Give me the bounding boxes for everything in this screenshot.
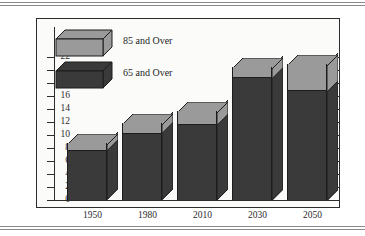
plot-area: 0246810121416182022 19501980201020302050… <box>37 19 339 207</box>
bar-segment-65-and-over <box>232 78 272 200</box>
chart-page: 0246810121416182022 19501980201020302050… <box>0 0 365 236</box>
rule-line <box>0 2 365 3</box>
bar-side-face <box>272 56 283 200</box>
bar-2050[interactable] <box>287 53 327 201</box>
legend-swatch <box>55 61 113 85</box>
bar-2010[interactable] <box>177 100 217 200</box>
legend-swatch <box>55 29 113 53</box>
rule-line <box>0 226 365 227</box>
x-axis-tick-label: 1950 <box>63 211 123 221</box>
bar-segment-divider <box>177 124 217 125</box>
y-axis-tick-label: 12 <box>61 117 71 127</box>
bar-segment-divider <box>287 90 327 91</box>
chart-legend: 85 and Over65 and Over <box>51 27 201 89</box>
x-axis-tick-label: 2030 <box>228 211 288 221</box>
bar-side-face <box>217 100 228 200</box>
x-axis-tick-label: 2010 <box>173 211 233 221</box>
rule-line <box>0 229 365 230</box>
legend-item-85-and-over[interactable]: 85 and Over <box>51 27 201 55</box>
bar-segment-65-and-over <box>177 125 217 200</box>
legend-item-65-and-over[interactable]: 65 and Over <box>51 59 201 87</box>
y-axis-tick-label: 14 <box>61 104 71 114</box>
bar-segment-65-and-over <box>67 151 107 200</box>
bar-side-face <box>327 53 338 201</box>
bar-segment-divider <box>232 77 272 78</box>
bar-segment-divider <box>122 133 162 134</box>
y-tick-right <box>332 200 339 201</box>
x-axis-tick-label: 2050 <box>283 211 343 221</box>
bar-segment-divider <box>67 150 107 151</box>
x-axis-tick-label: 1980 <box>118 211 178 221</box>
legend-label: 65 and Over <box>123 67 172 78</box>
page-rule-bottom <box>0 226 365 231</box>
bar-1950[interactable] <box>67 132 107 200</box>
bar-2030[interactable] <box>232 56 272 200</box>
chart-plot-frame: 0246810121416182022 19501980201020302050… <box>36 18 340 208</box>
y-axis-tick-label: 16 <box>61 91 71 101</box>
bar-1980[interactable] <box>122 112 162 200</box>
rule-line <box>0 5 365 6</box>
bar-segment-65-and-over <box>122 134 162 200</box>
page-rule-top <box>0 2 365 7</box>
legend-label: 85 and Over <box>123 35 172 46</box>
bar-segment-65-and-over <box>287 91 327 200</box>
x-axis-line <box>54 200 339 201</box>
